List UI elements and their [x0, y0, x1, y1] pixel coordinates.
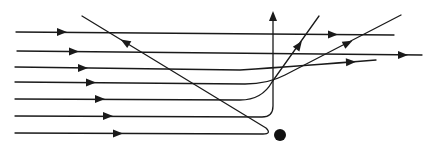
arrowhead-icon	[103, 112, 113, 120]
arrowhead-icon	[342, 37, 355, 49]
arrowhead-icon	[69, 48, 79, 56]
scattering-diagram	[0, 0, 438, 151]
path-6-right-angle-deflection	[15, 14, 273, 117]
arrowhead-icon	[119, 36, 132, 48]
direction-arrows	[57, 11, 408, 138]
arrowhead-icon	[95, 95, 105, 103]
arrowhead-icon	[269, 11, 277, 21]
arrowhead-icon	[86, 79, 96, 87]
arrowhead-icon	[78, 64, 88, 72]
arrowhead-icon	[398, 51, 408, 59]
trajectory-paths	[15, 14, 422, 134]
arrowhead-icon	[346, 58, 356, 67]
arrowhead-icon	[328, 31, 338, 39]
target-nucleus-dot	[274, 129, 286, 141]
arrowhead-icon	[57, 28, 67, 36]
path-3-slight-deflection	[15, 60, 376, 70]
arrowhead-icon	[113, 130, 123, 138]
